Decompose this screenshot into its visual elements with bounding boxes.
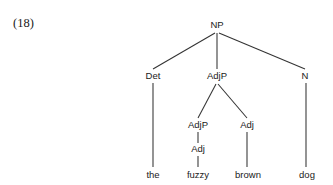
tree-node-adj1: Adj	[240, 119, 254, 130]
tree-leaf-leaf-fuzzy: fuzzy	[187, 169, 209, 180]
tree-branch-adjp-adjp	[198, 84, 216, 118]
tree-node-adjp1: AdjP	[207, 70, 227, 81]
tree-branch-adjp-adj	[218, 84, 247, 118]
tree-node-adjp2: AdjP	[188, 119, 208, 130]
tree-node-n: N	[302, 70, 309, 81]
tree-node-np: NP	[210, 19, 223, 30]
tree-leaf-leaf-dog: dog	[299, 169, 315, 180]
tree-node-det: Det	[146, 70, 161, 81]
tree-branch-np-det	[153, 33, 215, 69]
tree-node-adj2: Adj	[191, 143, 205, 154]
tree-leaf-leaf-the: the	[146, 169, 159, 180]
syntax-tree-diagram: NPDetAdjPNAdjPAdjAdj thefuzzybrowndog	[0, 0, 333, 185]
syntax-tree-figure: (18) NPDetAdjPNAdjPAdjAdj thefuzzybrownd…	[0, 0, 333, 185]
tree-edges-group	[153, 33, 306, 167]
tree-leaf-leaf-brown: brown	[235, 169, 261, 180]
tree-branch-np-n	[219, 33, 305, 69]
tree-leaves-group: thefuzzybrowndog	[146, 169, 315, 180]
tree-nodes-group: NPDetAdjPNAdjPAdjAdj	[146, 19, 309, 154]
